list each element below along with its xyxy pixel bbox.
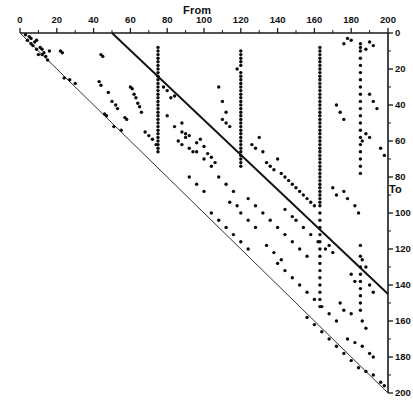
x-tick-label: 100 — [196, 14, 212, 25]
y-tick-label: 200 — [395, 387, 411, 398]
x-tick-label: 80 — [162, 14, 173, 25]
x-tick-label: 60 — [125, 14, 136, 25]
x-tick-label: 200 — [380, 14, 396, 25]
x-tick-label: 0 — [17, 14, 22, 25]
reference-lines — [20, 33, 388, 393]
y-tick-label: 160 — [395, 315, 411, 326]
x-tick-label: 140 — [270, 14, 286, 25]
x-tick-label: 20 — [52, 14, 63, 25]
x-tick-label: 160 — [306, 14, 322, 25]
plot-canvas — [0, 0, 413, 418]
y-tick-label: 40 — [395, 99, 406, 110]
y-tick-label: 0 — [395, 27, 400, 38]
minor-ticks — [38, 30, 391, 375]
scatter-plot-figure: From To 020406080100120140160180200 0204… — [0, 0, 413, 418]
y-tick-label: 80 — [395, 171, 406, 182]
y-tick-label: 100 — [395, 207, 411, 218]
data-points — [24, 33, 386, 387]
x-tick-label: 120 — [233, 14, 249, 25]
y-tick-label: 140 — [395, 279, 411, 290]
x-tick-label: 40 — [88, 14, 99, 25]
y-tick-label: 60 — [395, 135, 406, 146]
y-tick-label: 20 — [395, 63, 406, 74]
y-tick-label: 120 — [395, 243, 411, 254]
y-tick-label: 180 — [395, 351, 411, 362]
x-tick-label: 180 — [343, 14, 359, 25]
